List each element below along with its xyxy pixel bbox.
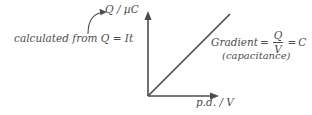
trend-line xyxy=(148,14,230,96)
capacitance-graph-diagram: calculated from Q = It Q / µC p.d. / V G… xyxy=(0,0,312,115)
curved-arrow-path xyxy=(88,12,104,34)
capacitance-symbol: C xyxy=(298,36,306,48)
y-axis-label: Q / µC xyxy=(105,4,139,15)
result-equals-sign: = xyxy=(287,36,296,48)
y-axis-arrowhead xyxy=(144,11,151,20)
annotation-capacitance-note: (capacitance) xyxy=(222,51,290,62)
fraction-numerator: Q xyxy=(273,30,284,41)
gradient-word: Gradient xyxy=(211,36,258,48)
gradient-equals-sign: = xyxy=(260,36,269,48)
annotation-calculated-from: calculated from Q = It xyxy=(14,33,133,44)
x-axis-label: p.d. / V xyxy=(196,97,234,108)
axes-group xyxy=(144,11,219,100)
